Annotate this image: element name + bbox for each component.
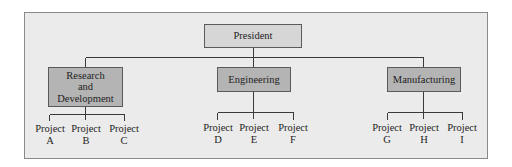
project-node: Project D [198, 122, 238, 146]
research-development-box: Research and Development [48, 67, 123, 107]
dept-label-line: Research [66, 70, 104, 82]
dept-label: Manufacturing [393, 74, 455, 86]
project-node: Project H [404, 122, 444, 146]
project-node: Project C [104, 123, 144, 147]
project-node: Project I [442, 122, 482, 146]
dept-label-line: Development [57, 93, 114, 105]
project-node: Project G [367, 122, 407, 146]
engineering-box: Engineering [217, 67, 291, 92]
project-node: Project E [234, 122, 274, 146]
dept-label: Engineering [228, 74, 279, 86]
dept-label-line: and [78, 81, 93, 93]
president-label: President [233, 30, 272, 42]
project-node: Project F [273, 122, 313, 146]
manufacturing-box: Manufacturing [387, 67, 461, 92]
president-box: President [204, 24, 302, 48]
project-node: Project B [66, 123, 106, 147]
project-node: Project A [30, 123, 70, 147]
